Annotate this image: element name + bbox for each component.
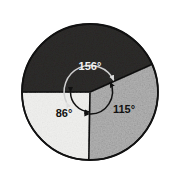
pie-chart-svg: 156° 115° 86° (0, 0, 183, 187)
angle-label-156: 156° (79, 60, 102, 72)
angle-label-86: 86° (56, 107, 73, 119)
pie-chart-figure: 156° 115° 86° (0, 0, 183, 187)
angle-label-115: 115° (113, 103, 135, 115)
